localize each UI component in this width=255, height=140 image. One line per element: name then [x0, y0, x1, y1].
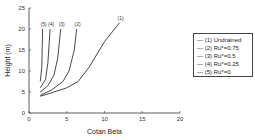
legend-item: — (4) Ru*=0.25 [197, 60, 249, 68]
x-tick-label: 0 [27, 116, 31, 122]
series-tag: (2) [75, 21, 81, 27]
legend-item: — (5) Ru*=0 [197, 68, 249, 76]
y-axis-label: Height (m) [4, 44, 12, 77]
legend-item: — (2) Ru*=0.75 [197, 44, 249, 52]
series-tag: (3) [59, 21, 65, 27]
y-tick-label: 10 [18, 68, 25, 74]
series-tag: (1) [118, 15, 124, 21]
x-tick-label: 5 [65, 116, 69, 122]
series-tag: (5) [41, 21, 47, 27]
y-tick-label: 0 [22, 110, 26, 116]
x-tick-label: 10 [101, 116, 108, 122]
y-tick-label: 25 [18, 5, 25, 11]
y-tick-label: 5 [22, 89, 26, 95]
x-axis-label: Cotan Beta [87, 128, 122, 135]
x-tick-label: 15 [139, 116, 146, 122]
legend-item: — (3) Ru*=0.5 [197, 52, 249, 60]
series-tag: (4) [48, 21, 54, 27]
x-tick-label: 20 [177, 116, 184, 122]
y-tick-label: 20 [18, 26, 25, 32]
chart-plot: 051015200510152025Cotan BetaHeight (m)(1… [0, 0, 190, 140]
legend-item: — (1) Undrained [197, 36, 249, 44]
series-line [40, 29, 42, 82]
series-line [40, 23, 119, 97]
chart-legend: — (1) Undrained — (2) Ru*=0.75 — (3) Ru*… [193, 33, 253, 77]
y-tick-label: 15 [18, 47, 25, 53]
